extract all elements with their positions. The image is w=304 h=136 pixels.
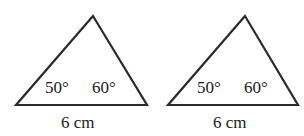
triangle-2-shape	[168, 16, 298, 105]
triangle-1-right-angle-label: 60°	[92, 79, 116, 96]
diagram-canvas	[0, 0, 304, 136]
triangle-2-left-angle-label: 50°	[197, 79, 221, 96]
triangle-1-shape	[16, 16, 147, 105]
triangle-2-base-label: 6 cm	[213, 114, 247, 131]
triangle-2-right-angle-label: 60°	[244, 79, 268, 96]
triangle-1-left-angle-label: 50°	[45, 79, 69, 96]
triangle-1-base-label: 6 cm	[61, 114, 95, 131]
